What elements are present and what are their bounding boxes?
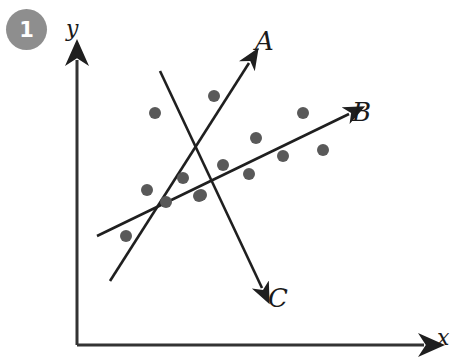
x-axis-label: x <box>437 327 449 349</box>
data-point <box>297 107 309 119</box>
data-point <box>193 190 205 202</box>
data-points-group <box>120 90 329 242</box>
data-point <box>141 184 153 196</box>
data-point <box>120 230 132 242</box>
scatter-figure <box>0 0 460 357</box>
data-point <box>160 196 172 208</box>
data-point <box>250 132 262 144</box>
trend-line-b <box>97 114 349 236</box>
data-point <box>217 159 229 171</box>
line-c-label: C <box>268 285 288 311</box>
trend-lines-group <box>97 63 349 288</box>
line-a-label: A <box>255 28 274 54</box>
data-point <box>208 90 220 102</box>
data-point <box>243 168 255 180</box>
data-point <box>277 150 289 162</box>
figure-canvas: 1 A B C y x <box>0 0 460 357</box>
data-point <box>177 172 189 184</box>
y-axis-label: y <box>66 18 78 40</box>
line-b-label: B <box>352 99 371 125</box>
data-point <box>149 107 161 119</box>
data-point <box>317 144 329 156</box>
axes-group <box>77 60 424 345</box>
